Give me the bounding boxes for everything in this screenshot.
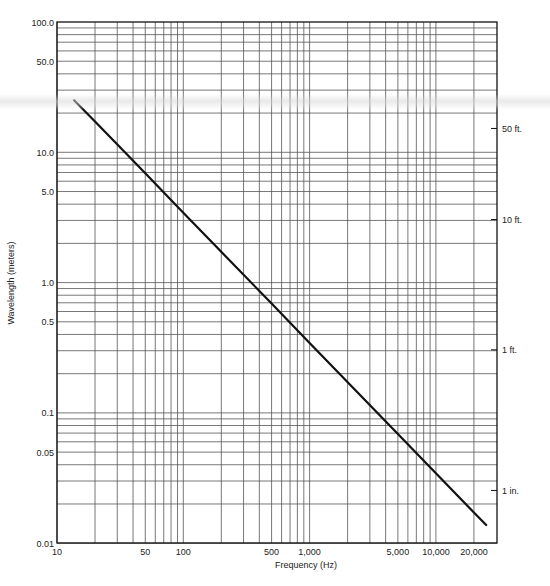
- y-axis-ticks: 100.050.010.05.01.00.50.10.050.01: [31, 18, 54, 549]
- wavelength-frequency-chart: 100.050.010.05.01.00.50.10.050.01 105010…: [0, 0, 550, 586]
- secondary-tick-label: 50 ft.: [502, 124, 522, 134]
- x-tick-label: 5,000: [387, 547, 410, 557]
- x-tick-label: 1,000: [298, 547, 321, 557]
- x-axis-ticks: 10501005001,0005,00010,00020,000: [52, 547, 488, 557]
- x-tick-label: 50: [140, 547, 150, 557]
- x-tick-label: 100: [176, 547, 191, 557]
- x-tick-label: 10,000: [422, 547, 450, 557]
- x-tick-label: 10: [52, 547, 62, 557]
- secondary-tick-label: 1 ft.: [502, 345, 517, 355]
- y-tick-label: 5.0: [41, 187, 54, 197]
- y-tick-label: 0.05: [36, 448, 54, 458]
- y-tick-label: 10.0: [36, 148, 54, 158]
- y-tick-label: 0.5: [41, 317, 54, 327]
- horizontal-gridlines: [57, 28, 497, 543]
- x-tick-label: 500: [264, 547, 279, 557]
- y-axis-label: Wavelength (meters): [6, 241, 16, 324]
- x-tick-label: 20,000: [460, 547, 488, 557]
- y-tick-label: 0.1: [41, 408, 54, 418]
- x-axis-label: Frequency (Hz): [275, 560, 337, 570]
- secondary-tick-label: 1 in.: [502, 486, 519, 496]
- y-tick-label: 50.0: [36, 57, 54, 67]
- y-tick-label: 100.0: [31, 18, 54, 28]
- secondary-tick-label: 10 ft.: [502, 215, 522, 225]
- secondary-y-axis-ticks: 50 ft.10 ft.1 ft.1 in.: [491, 124, 522, 496]
- wavelength-line: [74, 100, 486, 525]
- y-tick-label: 1.0: [41, 278, 54, 288]
